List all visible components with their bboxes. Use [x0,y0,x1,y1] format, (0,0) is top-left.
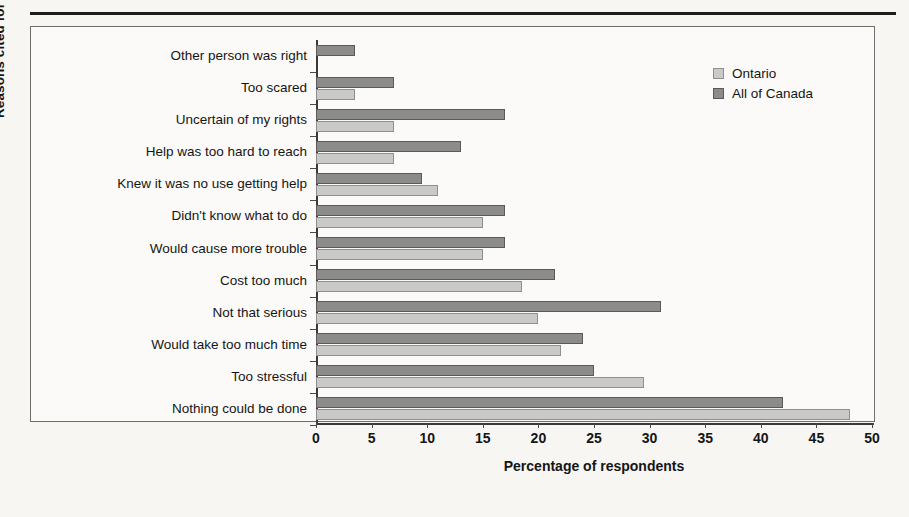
category-row: Didn't know what to do [316,200,872,232]
category-label: Knew it was no use getting help [117,177,307,191]
category-label: Other person was right [170,49,307,63]
bar-ontario [316,313,538,324]
category-label: Would cause more trouble [150,242,307,256]
category-label: Not that serious [212,306,307,320]
x-axis-tick-label: 50 [864,430,880,446]
x-axis-tick [594,423,595,428]
category-label: Too stressful [231,370,307,384]
x-axis-tick [316,423,317,428]
light-gray-swatch-icon [713,68,724,79]
x-axis-tick-label: 5 [368,430,376,446]
x-axis-tick-label: 15 [475,430,491,446]
bar-all-of-canada [316,109,505,120]
x-axis-title: Percentage of respondents [316,458,872,474]
x-axis-tick-label: 20 [531,430,547,446]
category-label: Didn't know what to do [172,209,307,223]
x-axis-tick [427,423,428,428]
category-label: Help was too hard to reach [146,145,307,159]
category-row: Help was too hard to reach [316,136,872,168]
category-row: Nothing could be done [316,393,872,425]
dark-gray-swatch-icon [713,88,724,99]
x-axis-tick [650,423,651,428]
x-axis-tick-label: 35 [697,430,713,446]
category-label: Uncertain of my rights [176,113,307,127]
bar-ontario [316,409,850,420]
x-axis-tick-label: 30 [642,430,658,446]
bar-all-of-canada [316,333,583,344]
bar-ontario [316,249,483,260]
x-axis-tick-label: 40 [753,430,769,446]
bar-all-of-canada [316,301,661,312]
legend-item-all-of-canada: All of Canada [713,86,813,101]
x-axis-tick-label: 0 [312,430,320,446]
legend-item-ontario: Ontario [713,66,813,81]
bar-all-of-canada [316,141,461,152]
category-row: Not that serious [316,297,872,329]
x-axis-tick-label: 25 [586,430,602,446]
bar-all-of-canada [316,237,505,248]
x-axis-tick-label: 45 [809,430,825,446]
bar-ontario [316,89,355,100]
figure-top-rule [30,12,896,15]
x-axis-tick [705,423,706,428]
category-label: Nothing could be done [172,402,307,416]
bar-all-of-canada [316,397,783,408]
x-axis-tick [816,423,817,428]
legend-label-all-of-canada: All of Canada [732,86,813,101]
bar-all-of-canada [316,45,355,56]
category-row: Too stressful [316,361,872,393]
legend-label-ontario: Ontario [732,66,776,81]
bar-ontario [316,185,438,196]
category-row: Would take too much time [316,329,872,361]
x-axis-tick-label: 10 [419,430,435,446]
bar-ontario [316,345,561,356]
y-axis-title: Reasons cited for inaction [0,0,7,118]
category-label: Cost too much [220,274,307,288]
bar-all-of-canada [316,77,394,88]
x-axis-tick [538,423,539,428]
bar-ontario [316,121,394,132]
bar-all-of-canada [316,205,505,216]
bar-all-of-canada [316,173,422,184]
chart-legend: Ontario All of Canada [713,66,813,106]
x-axis-tick [761,423,762,428]
bar-all-of-canada [316,269,555,280]
x-axis-tick [872,423,873,428]
bar-ontario [316,153,394,164]
x-axis-tick [372,423,373,428]
category-label: Would take too much time [151,338,307,352]
category-row: Uncertain of my rights [316,104,872,136]
bar-ontario [316,281,522,292]
category-label: Too scared [241,81,307,95]
x-axis-tick [483,423,484,428]
category-row: Would cause more trouble [316,233,872,265]
category-row: Cost too much [316,265,872,297]
bar-ontario [316,217,483,228]
category-row: Knew it was no use getting help [316,168,872,200]
bar-ontario [316,377,644,388]
bar-all-of-canada [316,365,594,376]
